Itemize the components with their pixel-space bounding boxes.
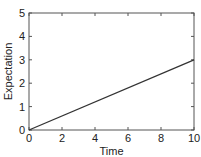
- y-tick-label: 4: [19, 30, 25, 42]
- x-axis-label: Time: [99, 145, 123, 157]
- x-tick-label: 2: [59, 132, 65, 144]
- y-tick-label: 0: [19, 124, 25, 136]
- y-axis-label: Expectation: [2, 43, 14, 100]
- plot-area: 0246810012345TimeExpectation: [2, 7, 200, 157]
- x-tick-label: 6: [125, 132, 131, 144]
- x-tick-label: 4: [92, 132, 98, 144]
- data-line: [29, 60, 194, 130]
- y-tick-label: 1: [19, 101, 25, 113]
- x-tick-label: 0: [26, 132, 32, 144]
- y-tick-label: 5: [19, 7, 25, 19]
- y-tick-label: 2: [19, 77, 25, 89]
- x-tick-label: 8: [158, 132, 164, 144]
- x-tick-label: 10: [188, 132, 200, 144]
- plot-frame: [29, 13, 194, 130]
- line-chart: 0246810012345TimeExpectation: [0, 0, 201, 157]
- y-tick-label: 3: [19, 54, 25, 66]
